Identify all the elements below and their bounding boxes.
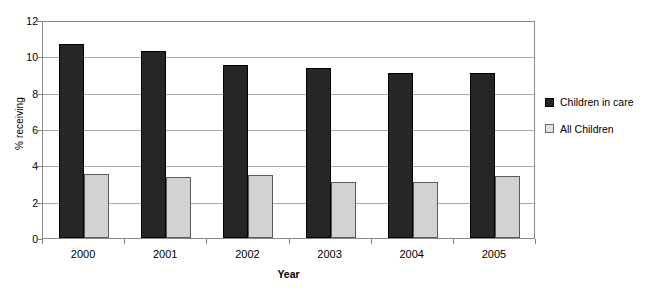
legend-item-all-children[interactable]: All Children [545,124,654,135]
bar-all-children-2003[interactable] [331,182,356,238]
y-axis-tick-mark [37,21,42,22]
legend-item-children-in-care[interactable]: Children in care [545,97,654,108]
x-axis-title: Year [42,268,535,280]
y-axis-tick-mark [37,203,42,204]
y-axis-tick-mark [37,239,42,240]
legend-label: Children in care [560,97,634,108]
bar-all-children-2005[interactable] [495,176,520,238]
y-axis-tick-label: 2 [18,197,38,208]
bar-all-children-2002[interactable] [248,175,273,238]
x-axis-tick-mark [124,239,125,244]
y-axis-tick-mark [37,166,42,167]
x-axis-tick-label-2005: 2005 [453,247,535,261]
x-axis-tick-mark [535,239,536,244]
x-axis-tick-label-2002: 2002 [206,247,288,261]
legend-swatch-icon [545,98,554,107]
y-axis-tick-label: 8 [18,88,38,99]
bars-layer [43,22,534,238]
y-axis-tick-mark [37,57,42,58]
y-axis-tick-label: 0 [18,234,38,245]
x-axis-tick-mark [289,239,290,244]
y-axis-tick-label: 4 [18,161,38,172]
x-axis-tick-label-2003: 2003 [289,247,371,261]
bar-children-in-care-2000[interactable] [59,44,84,238]
plot-area [42,21,535,239]
y-axis-tick-label: 12 [18,16,38,27]
bar-children-in-care-2003[interactable] [306,68,331,238]
x-axis-tick-mark [371,239,372,244]
x-axis-tick-marks [42,239,535,245]
y-axis-tick-mark [37,130,42,131]
x-axis-tick-label-2004: 2004 [371,247,453,261]
y-axis-tick-label: 10 [18,52,38,63]
y-axis-tick-mark [37,94,42,95]
legend-swatch-icon [545,124,554,133]
x-axis-tick-labels: 200020012002200320042005 [42,247,535,263]
legend: Children in careAll Children [545,97,654,150]
legend-label: All Children [560,124,614,135]
bar-children-in-care-2005[interactable] [470,73,495,238]
y-axis-tick-labels: 121086420 [18,0,38,290]
x-axis-tick-label-2000: 2000 [42,247,124,261]
bar-children-in-care-2001[interactable] [141,51,166,238]
x-axis-tick-mark [206,239,207,244]
x-axis-tick-mark [453,239,454,244]
bar-all-children-2001[interactable] [166,177,191,238]
bar-children-in-care-2004[interactable] [388,73,413,238]
bar-all-children-2000[interactable] [84,174,109,238]
x-axis-tick-mark [42,239,43,244]
bar-chart: % receiving 121086420 200020012002200320… [0,0,654,290]
bar-children-in-care-2002[interactable] [223,65,248,238]
bar-all-children-2004[interactable] [413,182,438,238]
y-axis-tick-label: 6 [18,125,38,136]
x-axis-tick-label-2001: 2001 [124,247,206,261]
